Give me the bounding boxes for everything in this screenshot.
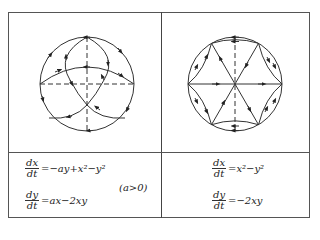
left-loop-left: [65, 37, 125, 118]
equation-rhs: =ax−2xy: [41, 195, 87, 206]
fraction-denominator: dt: [26, 201, 38, 211]
left-phase-portrait: [40, 37, 134, 131]
left-equation-dx: dxdt =−ay+x²−y²: [25, 158, 105, 179]
parameter-condition: (a>0): [119, 182, 148, 193]
fraction-denominator: dt: [213, 169, 225, 179]
right-equation-dy: dydt =−2xy: [212, 190, 262, 211]
equation-rhs: =−2xy: [228, 195, 262, 206]
left-loop-right: [49, 37, 109, 118]
right-equation-dx: dxdt =x²−y²: [212, 158, 264, 179]
left-equation-dy: dydt =ax−2xy: [25, 190, 87, 211]
fraction-denominator: dt: [26, 169, 38, 179]
fraction-denominator: dt: [213, 201, 225, 211]
equation-rhs: =−ay+x²−y²: [41, 163, 105, 174]
equation-rhs: =x²−y²: [228, 163, 264, 174]
right-phase-portrait: [188, 37, 282, 131]
